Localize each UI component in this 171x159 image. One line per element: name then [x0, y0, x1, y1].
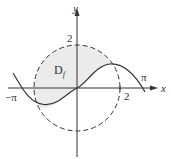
- y-axis-label: y: [72, 2, 78, 14]
- region-label-main: D: [54, 63, 63, 77]
- domain-diagram: y x 2 2 −π π Df: [0, 0, 171, 159]
- x-axis-label: x: [160, 82, 166, 94]
- x-tick-label-pi: π: [141, 71, 147, 83]
- y-tick-label-2: 2: [67, 32, 73, 44]
- diagram-canvas: y x 2 2 −π π Df: [0, 0, 171, 159]
- x-tick-label-neg-pi: −π: [5, 91, 17, 103]
- x-tick-label-2: 2: [124, 90, 130, 102]
- x-axis-arrow-icon: [150, 86, 158, 91]
